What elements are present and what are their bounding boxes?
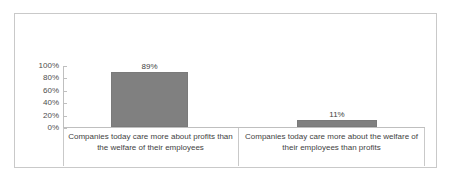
y-tick-label: 100% [39, 60, 59, 71]
y-tick-label: 60% [43, 85, 59, 96]
y-tick-label: 40% [43, 97, 59, 108]
category-divider-right [424, 128, 425, 166]
y-tick-label: 80% [43, 72, 59, 83]
y-tick-label: 0% [47, 122, 59, 133]
bar-series-0-category-0[interactable]: 89% [111, 72, 188, 127]
category-label-1: Companies today care more about the welf… [239, 131, 424, 153]
plot-area: 100% 80% 60% 40% 20% 0% 89% 11% [63, 66, 425, 128]
y-tick-60: 60% [63, 91, 67, 92]
bar-value-label: 89% [141, 62, 157, 71]
bar-series-0-category-1[interactable]: 11% [297, 120, 377, 127]
category-label-0: Companies today care more about profits … [63, 131, 238, 153]
y-axis-line [63, 66, 64, 128]
y-tick-mark [63, 66, 67, 67]
bar-value-label: 11% [329, 110, 344, 119]
y-tick-mark [63, 116, 67, 117]
chart-frame: 100% 80% 60% 40% 20% 0% 89% 11% [14, 13, 437, 168]
y-tick-20: 20% [63, 116, 67, 117]
y-tick-mark [63, 78, 67, 79]
y-tick-40: 40% [63, 103, 67, 104]
category-axis: Companies today care more about profits … [63, 128, 425, 166]
y-tick-mark [63, 103, 67, 104]
y-tick-100: 100% [63, 66, 67, 67]
y-tick-label: 20% [43, 110, 59, 121]
y-tick-mark [63, 91, 67, 92]
y-tick-80: 80% [63, 78, 67, 79]
